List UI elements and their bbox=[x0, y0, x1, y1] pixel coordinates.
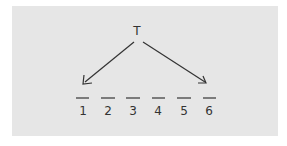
arrow-right bbox=[143, 42, 206, 83]
root-label: T bbox=[132, 24, 141, 38]
slot-label-1: 1 bbox=[79, 104, 87, 118]
slot-label-4: 4 bbox=[154, 104, 162, 118]
arrow-left bbox=[83, 42, 134, 84]
slot-label-6: 6 bbox=[205, 104, 213, 118]
slot-label-2: 2 bbox=[104, 104, 112, 118]
slot-label-3: 3 bbox=[129, 104, 137, 118]
slot-label-5: 5 bbox=[180, 104, 188, 118]
diagram-svg: T 1 2 3 4 5 6 bbox=[0, 0, 287, 146]
